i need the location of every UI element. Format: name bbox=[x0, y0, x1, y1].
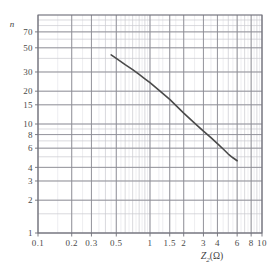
y-tick-label: 4 bbox=[28, 163, 33, 173]
y-tick-label: 3 bbox=[28, 176, 33, 186]
y-tick-label: 15 bbox=[23, 100, 33, 110]
y-tick-label: 20 bbox=[23, 86, 33, 96]
chart-container: 0.10.20.30.511.52346810 7050302015108643… bbox=[0, 0, 274, 268]
x-tick-label: 0.2 bbox=[65, 238, 77, 248]
x-tick-label: 3 bbox=[201, 238, 206, 248]
x-tick-label: 0.5 bbox=[110, 238, 123, 248]
y-tick-label: 1 bbox=[28, 228, 33, 238]
y-tick-label: 2 bbox=[28, 195, 33, 205]
x-tick-label: 6 bbox=[235, 238, 240, 248]
x-tick-label: 8 bbox=[249, 238, 254, 248]
x-tick-label: 2 bbox=[181, 238, 186, 248]
y-tick-label: 50 bbox=[23, 43, 33, 53]
x-tick-label: 4 bbox=[215, 238, 220, 248]
x-tick-label: 0.1 bbox=[32, 238, 44, 248]
y-axis-title: n bbox=[10, 19, 15, 29]
x-axis-title-unit: (Ω) bbox=[210, 251, 223, 262]
y-tick-label: 10 bbox=[23, 119, 33, 129]
y-tick-label: 30 bbox=[23, 67, 33, 77]
x-tick-label: 10 bbox=[257, 238, 267, 248]
y-tick-label: 8 bbox=[28, 130, 33, 140]
log-log-chart: 0.10.20.30.511.52346810 7050302015108643… bbox=[0, 0, 274, 268]
y-tick-label: 6 bbox=[28, 143, 33, 153]
x-tick-label: 1 bbox=[148, 238, 153, 248]
x-tick-label: 1.5 bbox=[163, 238, 176, 248]
x-tick-label: 0.3 bbox=[85, 238, 98, 248]
y-tick-label: 70 bbox=[23, 27, 33, 37]
